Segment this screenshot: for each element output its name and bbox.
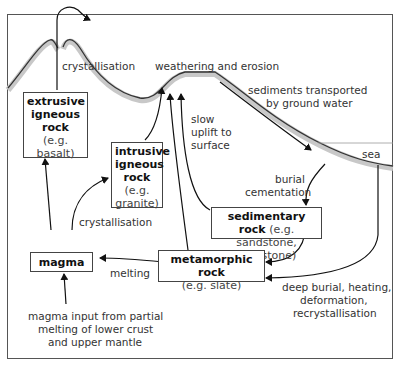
label-input-3: and upper mantle xyxy=(48,336,142,349)
intrusive-line1: intrusive xyxy=(115,145,170,158)
magma-box: magma xyxy=(30,252,93,272)
intrusive-example-b: granite) xyxy=(115,197,159,210)
label-burial-1: burial xyxy=(275,173,305,186)
extrusive-line2: igneous xyxy=(31,108,80,121)
label-crystallisation-top: crystallisation xyxy=(62,60,135,73)
magma-name: magma xyxy=(39,256,85,269)
extrusive-example: (e.g. basalt) xyxy=(37,134,75,160)
extrusive-line1: extrusive xyxy=(27,95,85,108)
label-crystallisation-mid: crystallisation xyxy=(79,216,152,229)
label-sea: sea xyxy=(362,148,380,161)
label-deep-2: deformation, xyxy=(300,294,368,307)
extrusive-line3: rock xyxy=(42,121,69,134)
metamorphic-example: (e.g. slate) xyxy=(182,279,241,292)
label-sediments-1: sediments transported xyxy=(248,84,367,97)
intrusive-line2: igneous xyxy=(115,158,164,171)
label-input-1: magma input from partial xyxy=(28,310,163,323)
metamorphic-rock-box: metamorphic rock (e.g. slate) xyxy=(158,250,265,282)
sedimentary-example-a: (e.g. xyxy=(269,223,294,236)
label-uplift-1: slow xyxy=(191,113,214,126)
sedimentary-rock-box: sedimentary rock (e.g. sandstone, mudsto… xyxy=(211,207,322,239)
label-uplift-3: surface xyxy=(191,139,230,152)
intrusive-example-a: (e.g. xyxy=(124,184,149,197)
metamorphic-name: metamorphic rock xyxy=(170,253,252,279)
extrusive-igneous-rock-box: extrusive igneous rock (e.g. basalt) xyxy=(23,92,88,158)
label-input-2: melting of lower crust xyxy=(38,323,153,336)
intrusive-igneous-rock-box: intrusive igneous rock (e.g. granite) xyxy=(111,142,163,208)
label-sediments-2: by ground water xyxy=(266,97,353,110)
intrusive-line3: rock xyxy=(124,171,151,184)
label-deep-1: deep burial, heating, xyxy=(282,281,391,294)
label-burial-2: cementation xyxy=(245,186,311,199)
label-uplift-2: uplift to xyxy=(191,126,232,139)
label-deep-3: recrystallisation xyxy=(293,307,377,320)
label-melting: melting xyxy=(110,267,150,280)
label-weathering: weathering and erosion xyxy=(155,60,279,73)
